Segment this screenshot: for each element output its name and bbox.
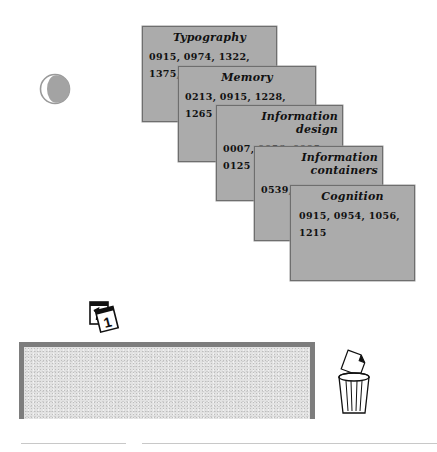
card-title: Memory (179, 71, 315, 84)
card-title: Information design (217, 110, 342, 136)
calendar-icon[interactable]: 1 (88, 298, 122, 334)
moon-phase-icon[interactable] (39, 73, 71, 105)
note-card-cognition[interactable]: Cognition 0915, 0954, 1056, 1215 (290, 185, 415, 281)
shelf-tray[interactable] (19, 342, 315, 419)
card-title: Cognition (291, 190, 414, 203)
divider-right (142, 443, 437, 444)
divider-left (21, 443, 126, 444)
card-refs: 0915, 0954, 1056, 1215 (291, 203, 414, 241)
card-title: Information containers (255, 151, 382, 177)
trash-can-icon[interactable] (336, 347, 372, 415)
card-title: Typography (143, 31, 276, 44)
